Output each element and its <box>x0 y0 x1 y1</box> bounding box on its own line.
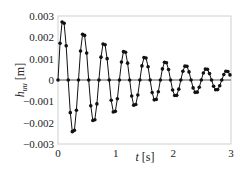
data-point <box>144 56 148 60</box>
data-point <box>181 69 185 73</box>
x-tick-label: 0 <box>55 147 61 159</box>
data-point <box>197 85 201 89</box>
y-axis-ticks: 0.0030.0020.0010−0.001−0.002−0.003 <box>23 10 54 150</box>
data-point <box>120 60 124 64</box>
data-point <box>83 34 87 38</box>
data-point <box>216 88 220 92</box>
data-point <box>134 103 138 107</box>
data-point <box>56 78 60 82</box>
y-tick-label: 0 <box>49 74 55 86</box>
data-point <box>128 78 132 82</box>
data-point <box>107 78 111 82</box>
data-point <box>154 98 158 102</box>
data-point <box>99 55 103 59</box>
data-point <box>79 49 83 53</box>
data-point <box>175 94 179 98</box>
data-point <box>85 51 89 55</box>
data-point <box>105 57 109 61</box>
data-point <box>202 71 206 75</box>
data-point <box>93 118 97 122</box>
x-tick-label: 3 <box>228 147 234 159</box>
data-point <box>109 98 113 102</box>
data-point <box>200 78 204 82</box>
data-point <box>73 129 77 133</box>
data-point <box>116 97 120 101</box>
data-point <box>103 43 107 47</box>
data-point <box>167 68 171 72</box>
y-tick-label: 0.001 <box>29 53 54 65</box>
data-point <box>195 90 199 94</box>
y-tick-label: −0.002 <box>23 117 54 129</box>
x-tick-label: 2 <box>171 147 177 159</box>
data-point <box>222 73 226 77</box>
y-tick-label: −0.003 <box>23 138 54 150</box>
damped-oscillation-chart: 0.0030.0020.0010−0.001−0.002−0.003 0123 … <box>0 0 243 173</box>
data-point <box>89 104 93 108</box>
data-point <box>124 50 128 54</box>
data-point <box>157 90 161 94</box>
data-point <box>136 93 140 97</box>
y-tick-label: −0.001 <box>23 95 54 107</box>
data-point <box>165 61 169 65</box>
y-tick-label: 0.002 <box>29 31 54 43</box>
data-point <box>228 73 232 77</box>
data-point <box>185 65 189 69</box>
data-point <box>62 21 66 25</box>
data-point <box>210 78 214 82</box>
data-point <box>126 61 130 65</box>
data-point <box>191 86 195 90</box>
data-point <box>97 78 101 82</box>
data-point <box>118 78 122 82</box>
data-point <box>171 88 175 92</box>
y-axis-label: huu[m] <box>13 63 29 97</box>
data-point <box>159 78 163 82</box>
data-point <box>206 68 210 72</box>
data-point <box>150 91 154 95</box>
data-point <box>179 78 183 82</box>
data-point <box>187 70 191 74</box>
data-point <box>95 102 99 106</box>
data-point <box>64 44 68 48</box>
data-point <box>189 78 193 82</box>
data-point <box>58 42 62 46</box>
data-point <box>208 72 212 76</box>
data-point <box>75 108 79 112</box>
data-point <box>66 78 70 82</box>
data-point <box>138 78 142 82</box>
data-point <box>146 65 150 69</box>
y-tick-label: 0.003 <box>29 10 54 22</box>
data-point <box>212 84 216 88</box>
data-point <box>177 87 181 91</box>
data-point <box>130 94 134 98</box>
data-point <box>114 110 118 114</box>
x-axis-label: t[s] <box>135 150 154 164</box>
data-point <box>218 84 222 88</box>
data-point <box>77 78 81 82</box>
data-point <box>220 78 224 82</box>
data-point <box>140 64 144 68</box>
data-point <box>226 70 230 74</box>
data-point <box>169 78 173 82</box>
data-point <box>161 67 165 71</box>
data-point <box>87 78 91 82</box>
data-point <box>148 78 152 82</box>
x-tick-label: 1 <box>113 147 119 159</box>
data-point <box>68 111 72 115</box>
